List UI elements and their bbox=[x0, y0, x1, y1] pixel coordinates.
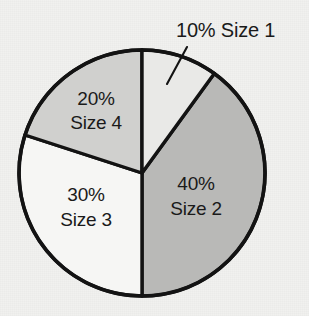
pie-label-size-1: 10% Size 1 bbox=[176, 19, 275, 41]
pie-chart-figure: 10% Size 1 20% Size 4 30% Size 3 40% Siz… bbox=[0, 0, 309, 316]
pie-chart-svg: 10% Size 1 20% Size 4 30% Size 3 40% Siz… bbox=[0, 0, 309, 316]
pie-label-size-3-name: Size 3 bbox=[60, 209, 112, 230]
pie-label-size-4-percent: 20% bbox=[77, 88, 115, 109]
pie-label-size-4-name: Size 4 bbox=[70, 112, 122, 133]
pie-label-size-2-name: Size 2 bbox=[170, 198, 222, 219]
pie-label-size-3-percent: 30% bbox=[67, 184, 105, 205]
pie-label-size-2-percent: 40% bbox=[177, 173, 215, 194]
